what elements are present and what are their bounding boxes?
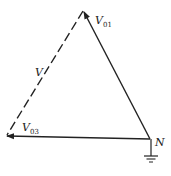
phasor-v-dashed-line: [7, 11, 83, 135]
phasor-v03-line: [7, 136, 150, 139]
label-v: V: [35, 66, 44, 79]
label-v03: V03: [22, 121, 39, 136]
label-v01: V01: [95, 14, 112, 29]
label-neutral-n: N: [154, 136, 165, 149]
phasor-v01-line: [84, 12, 150, 139]
phasor-diagram: V01 V03 V N: [0, 0, 171, 176]
